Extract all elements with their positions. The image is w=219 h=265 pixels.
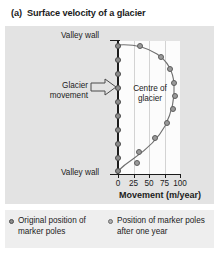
- figure-title: Surface velocity of a glacier: [27, 8, 146, 18]
- legend-item-after-one-year: Position of marker poles after one year: [117, 216, 211, 237]
- x-ticklabel-0: 0: [112, 179, 124, 188]
- x-tick-25: [134, 174, 135, 178]
- figure-root: (a)Surface velocity of a glacier 0 25: [0, 0, 219, 265]
- x-tick-75: [165, 174, 166, 178]
- legend-item-original: Original position of marker poles: [18, 216, 104, 237]
- x-tick-50: [149, 174, 150, 178]
- page-title: (a)Surface velocity of a glacier: [11, 8, 146, 18]
- annotation-glacier-movement-line2: movement: [38, 91, 88, 101]
- annotation-valley-wall-top: Valley wall: [61, 31, 99, 41]
- gridline-25: [134, 41, 135, 174]
- x-tick-0: [118, 174, 119, 178]
- annotation-glacier-movement-line1: Glacier: [38, 81, 88, 91]
- x-ticklabel-75: 75: [158, 179, 172, 188]
- chart-panel: [5, 26, 214, 204]
- annotation-glacier-movement: Glacier movement: [38, 81, 88, 101]
- figure-title-band: (a)Surface velocity of a glacier: [0, 0, 219, 27]
- gridline-75: [165, 41, 166, 174]
- annotation-valley-wall-bottom: Valley wall: [61, 168, 99, 178]
- x-tick-100: [180, 174, 181, 178]
- x-axis-title: Movement (m/year): [108, 190, 212, 200]
- x-ticklabel-100: 100: [171, 179, 189, 188]
- x-ticklabel-25: 25: [127, 179, 141, 188]
- gridline-50: [149, 41, 150, 174]
- x-ticklabel-50: 50: [142, 179, 156, 188]
- figure-label: (a): [11, 8, 22, 18]
- annotation-centre-of-glacier: Centre of glacier: [124, 84, 176, 104]
